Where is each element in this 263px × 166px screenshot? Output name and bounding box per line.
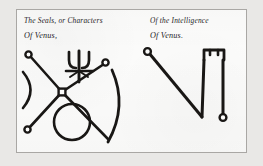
ring-terminal-upper-right (102, 59, 108, 65)
ring-terminal-top-left (144, 48, 151, 55)
bottom-circle (54, 104, 90, 140)
caption-left-line-2: Of Venus, (24, 32, 57, 40)
seal-cross-arms (29, 56, 108, 139)
scanned-plate-page: The Seals, or Characters Of Venus, Of th… (0, 0, 263, 166)
caption-right-line-2: Of Venus. (150, 32, 183, 40)
seal-of-venus-figure (16, 44, 140, 148)
ring-terminal-lower-left (24, 126, 30, 132)
psi-trident-glyph (66, 51, 93, 82)
diagonal-stroke (149, 53, 202, 117)
right-crescent-arc (108, 70, 119, 142)
arm-lower-right (62, 92, 108, 139)
ring-terminal-bottom-right (220, 114, 227, 121)
caption-right-line-1: Of the Intelligence (150, 17, 209, 24)
squared-arch-bracket (204, 50, 224, 60)
ring-terminal-upper-left (25, 51, 31, 57)
caption-left-line-1: The Seals, or Characters (24, 17, 103, 24)
intelligence-of-venus-figure (140, 44, 240, 136)
arm-upper-left (30, 56, 62, 92)
vee-ascending-stroke (202, 60, 204, 117)
left-crescent-arc (23, 72, 31, 108)
central-square-node (59, 89, 66, 96)
